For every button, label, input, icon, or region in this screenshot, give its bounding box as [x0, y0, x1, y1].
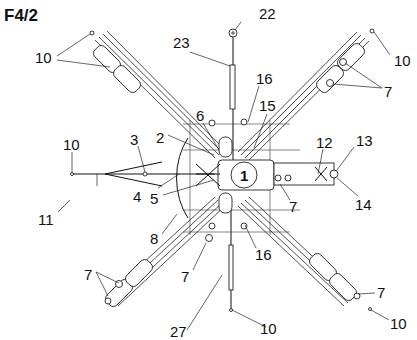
- callout-5: 5: [150, 190, 158, 207]
- callout-6: 6: [196, 107, 204, 124]
- callout-7: 7: [181, 268, 189, 285]
- callout-8: 8: [150, 230, 158, 247]
- callout-10: 10: [260, 320, 277, 337]
- callout-16: 16: [255, 246, 272, 263]
- callout-27: 27: [170, 323, 187, 340]
- arm-bottom-left: [103, 197, 225, 309]
- callout-22: 22: [259, 5, 276, 22]
- callout-7: 7: [384, 83, 392, 100]
- callout-7: 7: [289, 198, 297, 215]
- callout-15: 15: [259, 97, 276, 114]
- callout-10: 10: [63, 136, 80, 153]
- callout-10: 10: [390, 315, 407, 332]
- callout-13: 13: [356, 132, 373, 149]
- seismic-array-diagram: 10 22 10 23 7 16 6 15 10 3 2 12 13 4 5 7…: [0, 0, 417, 340]
- callout-3: 3: [130, 131, 138, 148]
- callout-7: 7: [377, 284, 385, 301]
- left-tow-line: [71, 162, 216, 186]
- callout-23: 23: [173, 34, 190, 51]
- callout-7: 7: [84, 266, 92, 283]
- callout-2: 2: [156, 129, 164, 146]
- hub-label: 1: [240, 167, 248, 184]
- callout-4: 4: [133, 188, 141, 205]
- callout-10: 10: [394, 52, 411, 69]
- callout-16: 16: [256, 70, 273, 87]
- bottom-mast: [229, 200, 233, 312]
- callout-12: 12: [316, 134, 333, 151]
- callout-14: 14: [355, 196, 372, 213]
- callout-10: 10: [35, 49, 52, 66]
- arm-top-right: [238, 29, 374, 160]
- callout-11: 11: [38, 211, 54, 228]
